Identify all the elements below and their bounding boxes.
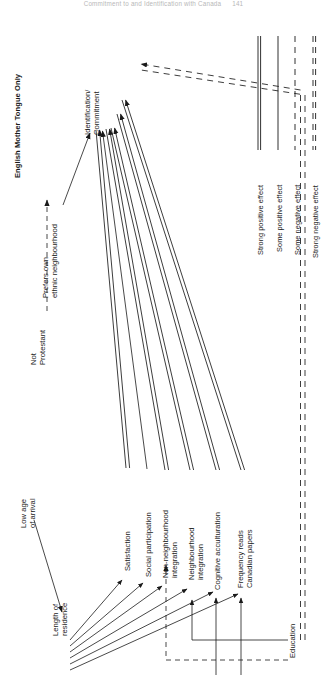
node-frequency-reads-canadian-papers: Frequency reads Canadian papers [237, 529, 254, 588]
legend-label-some-negative: Some negative effect [293, 185, 302, 255]
node-length-of-residence: Length of residence [52, 603, 69, 636]
node-satisfaction: Satisfaction [124, 531, 133, 571]
edge-education-to-non-neighbourhood [166, 565, 288, 660]
edge-neighbourhood-to-target [111, 128, 194, 470]
edges-education-upward [192, 598, 288, 675]
edge-length-to-frequency [70, 594, 238, 670]
node-social-participation: Social participation [145, 512, 154, 577]
edges-length-of-residence [70, 580, 238, 670]
node-cognitive-acculturation: Cognitive acculturation [214, 512, 223, 590]
node-education: Education [289, 624, 298, 658]
edge-social-participation-to-target [103, 131, 148, 469]
legend-samples [258, 36, 316, 150]
node-identification-commitment: Identification/ Commitment [84, 90, 101, 136]
edge-frequency-reads-to-target [122, 100, 245, 470]
node-low-age-of-arrival: Low age of arrival [20, 498, 37, 528]
education-bus-line [192, 600, 288, 640]
node-not-protestant: Not Protestant [30, 330, 47, 365]
edge-cognitive-acculturation-to-target [117, 114, 220, 470]
legend-line-strong-positive [258, 36, 261, 150]
group-title: English Mother Tongue Only [14, 74, 23, 178]
edge-length-to-neigh-int [70, 589, 187, 658]
legend-label-strong-positive: Strong positive effect [256, 185, 265, 255]
edge-length-to-non-neigh [70, 586, 162, 652]
node-neighbourhood-integration: Neighbourhood integration [188, 527, 205, 580]
edge-low-age-to-length [34, 520, 62, 612]
edges-strong-positive [96, 100, 245, 470]
edge-non-neighbourhood-to-target [106, 129, 169, 470]
legend-line-strong-negative [313, 36, 316, 150]
edge-length-to-satisfaction [70, 580, 122, 640]
edge-prefers-own-to-target [63, 133, 90, 205]
diagram-canvas [0, 0, 327, 691]
legend-label-some-positive: Some positive effect [275, 185, 284, 252]
node-non-neighbourhood-integration: Non-neighbourhood integration [162, 510, 179, 578]
node-prefers-own: Prefers own ethnic neighbourhood [42, 224, 59, 298]
legend-label-strong-negative: Strong negative effect [311, 185, 320, 258]
edges-some-positive-to-target [63, 131, 147, 469]
edges-some-negative [47, 200, 288, 660]
